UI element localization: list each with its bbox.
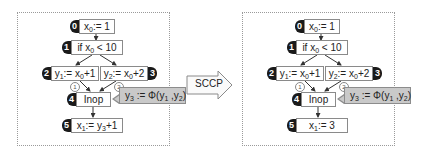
after-node-badge-2: 2: [267, 67, 276, 80]
node-4: Inop: [76, 92, 111, 107]
node-5-mid: := y: [86, 120, 102, 131]
node-1-pre: if x: [77, 42, 90, 53]
after-node-badge-0: 0: [295, 20, 304, 33]
node-badge-1: 1: [62, 41, 71, 54]
node-5-rest: +1: [106, 120, 117, 131]
node-badge-5: 5: [62, 119, 71, 132]
node-0: x0:= 1: [79, 19, 115, 34]
node-2: y1:= x0+1: [51, 66, 99, 81]
after-node-4: Inop: [301, 92, 336, 107]
after-node-0: x0:= 1: [304, 19, 340, 34]
after-node-5: x1:= 3: [296, 118, 348, 133]
node-1: if x0 < 10: [71, 40, 123, 55]
after-phi-annotation: y3 := Φ(y1 ,y2): [344, 87, 411, 104]
node-4-text: Inop: [84, 94, 103, 105]
after-node-1: if x0 < 10: [296, 40, 348, 55]
node-3-rest: +2: [133, 68, 144, 79]
node-5: x1:= y3+1: [71, 118, 123, 133]
edge-label-1: 1: [70, 82, 80, 92]
node-2-rest: +1: [84, 68, 95, 79]
node-3: y2:= x0+2: [100, 66, 148, 81]
node-2-mid: := x: [64, 68, 80, 79]
after-node-badge-5: 5: [287, 119, 296, 132]
phi-annotation: y3 := Φ(y1 ,y2): [119, 87, 186, 104]
node-badge-2: 2: [42, 67, 51, 80]
after-node-badge-4: 4: [292, 93, 301, 106]
after-node-badge-1: 1: [287, 41, 296, 54]
node-3-mid: := x: [113, 68, 129, 79]
sccp-label: SCCP: [192, 78, 226, 89]
node-badge-0: 0: [70, 20, 79, 33]
node-badge-4: 4: [67, 93, 76, 106]
node-0-rest: := 1: [93, 21, 110, 32]
after-node-3: y2:= x0+2: [325, 66, 373, 81]
after-edge-label-1: 1: [295, 82, 305, 92]
after-node-2: y1:= x0+1: [276, 66, 324, 81]
node-1-rest: < 10: [94, 42, 117, 53]
